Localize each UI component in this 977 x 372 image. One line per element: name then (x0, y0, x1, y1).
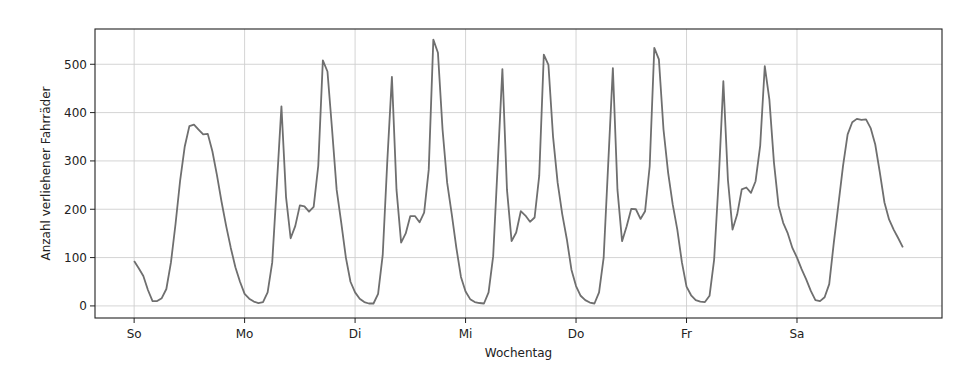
gridlines (95, 29, 942, 318)
x-tick-label: Mo (236, 327, 254, 341)
y-tick-label: 400 (64, 106, 87, 120)
x-tick-label: Fr (681, 327, 692, 341)
plot-frame (95, 29, 942, 318)
x-tick-label: Mi (459, 327, 473, 341)
y-tick-label: 0 (79, 299, 87, 313)
series-line (134, 40, 903, 304)
x-axis-title: Wochentag (485, 346, 552, 360)
x-axis-ticks: SoMoDiMiDoFrSa (127, 318, 805, 341)
y-tick-label: 300 (64, 154, 87, 168)
x-tick-label: Di (349, 327, 362, 341)
x-tick-label: So (127, 327, 142, 341)
y-tick-label: 500 (64, 58, 87, 72)
x-tick-label: Do (568, 327, 585, 341)
chart-canvas: SoMoDiMiDoFrSa 0100200300400500 Wochenta… (0, 0, 977, 372)
y-axis-title: Anzahl verliehener Fahrräder (39, 86, 53, 260)
y-tick-label: 100 (64, 251, 87, 265)
y-axis-ticks: 0100200300400500 (64, 58, 95, 314)
x-tick-label: Sa (790, 327, 805, 341)
y-tick-label: 200 (64, 203, 87, 217)
line-chart: SoMoDiMiDoFrSa 0100200300400500 Wochenta… (0, 0, 977, 372)
series-layer (134, 40, 903, 304)
